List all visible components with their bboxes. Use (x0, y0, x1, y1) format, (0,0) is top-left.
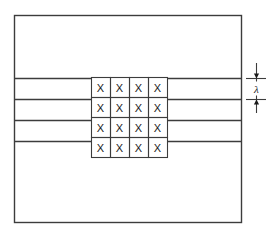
grid-cell-marker: X (135, 82, 143, 94)
grid-cell-marker: X (116, 102, 124, 114)
grid-cell-marker: X (135, 102, 143, 114)
lambda-label: λ (253, 83, 259, 95)
grid-cell-marker: X (97, 122, 105, 134)
grid-cell-marker: X (135, 122, 143, 134)
grid-cell-marker: X (97, 142, 105, 154)
grid-cell-marker: X (154, 102, 162, 114)
grid-cell-marker: X (154, 122, 162, 134)
lambda-dimension-annotation: λ (246, 63, 266, 113)
dimension-arrowhead-up-icon (254, 100, 259, 105)
technical-diagram: XXXXXXXXXXXXXXXX λ (0, 0, 270, 234)
grid-cell-marker: X (97, 102, 105, 114)
cell-grid: XXXXXXXXXXXXXXXX (91, 77, 168, 158)
grid-cell-marker: X (154, 142, 162, 154)
diagram-canvas: XXXXXXXXXXXXXXXX λ (0, 0, 270, 234)
grid-cell-marker: X (97, 82, 105, 94)
grid-cell-marker: X (116, 142, 124, 154)
dimension-arrowhead-down-icon (254, 74, 259, 79)
grid-cell-marker: X (116, 122, 124, 134)
grid-cell-marker: X (135, 142, 143, 154)
grid-cell-marker: X (154, 82, 162, 94)
grid-cell-marker: X (116, 82, 124, 94)
